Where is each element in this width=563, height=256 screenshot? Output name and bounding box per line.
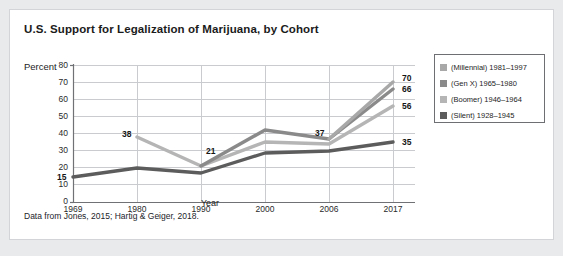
point-label-1990-genx: 21 [206, 147, 215, 156]
point-label-1969-silent: 15 [57, 173, 66, 182]
point-label-1980-boomer: 38 [122, 130, 131, 139]
x-axis-title: Year [10, 198, 410, 208]
legend-label: (Boomer) 1946–1964 [451, 95, 522, 104]
legend-item-millennial[interactable]: (Millennial) 1981–1997 [440, 60, 540, 75]
legend-label: (Gen X) 1965–1980 [451, 79, 517, 88]
chart-card: U.S. Support for Legalization of Marijua… [9, 9, 554, 240]
legend-swatch-icon [440, 96, 447, 103]
source-note: Data from Jones, 2015; Hartig & Geiger, … [24, 211, 199, 221]
point-label-2017-silent: 35 [402, 138, 411, 147]
legend-item-silent[interactable]: (Silent) 1928–1945 [440, 108, 540, 123]
point-label-2017-millennial: 70 [402, 74, 411, 83]
chart-legend: (Millennial) 1981–1997 (Gen X) 1965–1980… [434, 54, 545, 123]
point-label-2017-genx: 66 [402, 85, 411, 94]
legend-item-genx[interactable]: (Gen X) 1965–1980 [440, 76, 540, 91]
plot-area: Percent 80 70 60 50 40 30 20 10 0 1969 1… [10, 10, 555, 241]
legend-label: (Silent) 1928–1945 [451, 111, 514, 120]
point-label-2006-millennial: 37 [315, 129, 324, 138]
point-label-2017-boomer: 56 [402, 102, 411, 111]
legend-item-boomer[interactable]: (Boomer) 1946–1964 [440, 92, 540, 107]
legend-swatch-icon [440, 112, 447, 119]
legend-swatch-icon [440, 64, 447, 71]
legend-swatch-icon [440, 80, 447, 87]
legend-label: (Millennial) 1981–1997 [451, 63, 527, 72]
